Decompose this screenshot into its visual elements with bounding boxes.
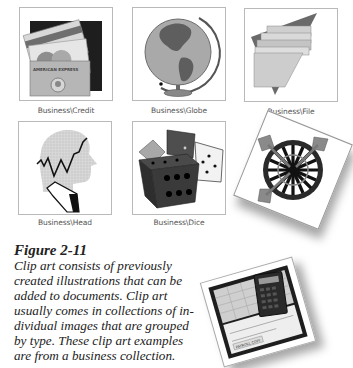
figure-line: created illustrations that can be — [14, 273, 212, 288]
head-chart-illustration — [19, 122, 111, 214]
file-folders-illustration — [245, 9, 337, 101]
clipart-head-frame[interactable] — [18, 121, 112, 215]
caption-file: Business\File — [236, 107, 346, 116]
caption-credit: Business\Credit — [11, 106, 121, 115]
clipart-dice-frame[interactable] — [132, 121, 226, 215]
globe-illustration — [133, 8, 225, 100]
figure-line: by type. These clip art examples — [14, 333, 212, 348]
figure-line: added to documents. Clip art — [14, 288, 212, 303]
clipart-dartboard-frame[interactable] — [233, 110, 353, 230]
checkbook-calculator-illustration: PAYROLL COPY — [201, 258, 315, 367]
figure-line: Clip art consists of previously — [14, 258, 212, 273]
clipart-credit-frame[interactable]: ISA AMERICAN EXPRESS — [19, 7, 113, 101]
caption-dice: Business\Dice — [124, 218, 234, 227]
card-amex-text: AMERICAN EXPRESS — [33, 67, 78, 72]
clipart-file-frame[interactable] — [244, 8, 338, 102]
dice-illustration — [133, 122, 225, 214]
figure-line: are from a business collection. — [14, 348, 212, 363]
credit-cards-illustration: ISA AMERICAN EXPRESS — [20, 8, 112, 100]
figure-title: Figure 2-11 — [14, 242, 87, 259]
figure-description: Clip art consists of previously created … — [14, 258, 212, 363]
figure-line: dividual images that are grouped — [14, 318, 212, 333]
figure-line: usually comes in collections of in- — [14, 303, 212, 318]
caption-globe: Business\Globe — [124, 106, 234, 115]
caption-head: Business\Head — [10, 218, 120, 227]
dartboard-illustration — [234, 111, 351, 228]
clipart-globe-frame[interactable] — [132, 7, 226, 101]
clipart-checkbook-frame[interactable]: PAYROLL COPY — [200, 256, 317, 367]
